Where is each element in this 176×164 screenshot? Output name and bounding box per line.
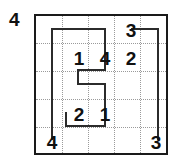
gridline-horizontal-4 [36,127,166,128]
puzzle-grid[interactable] [34,14,168,155]
gridline-vertical-3 [114,16,115,153]
gridline-vertical-1 [62,16,63,153]
gridline-vertical-2 [88,16,89,153]
gridline-horizontal-2 [36,71,166,72]
gridline-horizontal-1 [36,43,166,44]
gridline-horizontal-3 [36,99,166,100]
outside-clue-top-left: 4 [9,10,20,29]
gridline-vertical-4 [140,16,141,153]
puzzle-canvas: 4 3 1 4 2 2 1 4 3 [0,0,176,164]
